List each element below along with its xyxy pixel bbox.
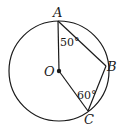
geometry-diagram: A B C O 50° 60° <box>0 0 121 128</box>
angle-label-oab: 50° <box>60 36 80 49</box>
point-label-c: C <box>84 112 94 127</box>
segment-oa <box>58 21 59 71</box>
point-label-b: B <box>106 59 117 74</box>
angle-label-ocb: 60° <box>77 89 97 102</box>
point-label-a: A <box>52 5 62 20</box>
point-label-o: O <box>44 64 55 79</box>
center-point-dot <box>57 69 61 73</box>
